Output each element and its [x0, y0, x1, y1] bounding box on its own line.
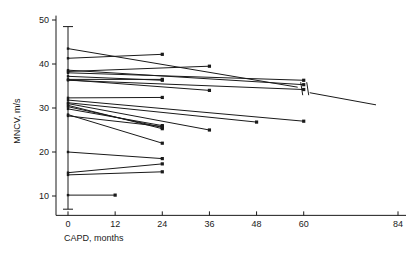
startpoint-marker [67, 115, 69, 117]
series-patient-10[interactable] [67, 96, 164, 99]
x-tick-label-84: 84 [393, 219, 403, 229]
y-tick-label-30: 30 [39, 103, 49, 113]
startpoint-marker [67, 108, 69, 110]
endpoint-marker [208, 128, 211, 131]
startpoint-marker [67, 97, 69, 99]
trajectory-line [68, 104, 209, 130]
series-patient-17[interactable] [67, 113, 164, 144]
endpoint-marker [255, 120, 258, 123]
series-patient-9[interactable] [67, 79, 306, 91]
x-tick-label-48: 48 [252, 219, 262, 229]
startpoint-marker [67, 75, 69, 77]
break-slash-2 [307, 82, 309, 95]
series-patient-11[interactable] [67, 99, 306, 123]
startpoint-marker [67, 171, 69, 173]
trajectory-line [68, 164, 162, 173]
plot-area: 1020304050MNCV, m/s0122436486084CAPD, mo… [0, 0, 418, 278]
startpoint-marker [67, 105, 69, 107]
endpoint-marker [302, 83, 305, 86]
startpoint-marker [67, 57, 69, 59]
y-tick-label-40: 40 [39, 59, 49, 69]
x-tick-label-0: 0 [65, 219, 70, 229]
trajectory-line [68, 54, 162, 58]
startpoint-marker [67, 151, 69, 153]
y-tick-label-20: 20 [39, 147, 49, 157]
endpoint-marker [161, 96, 164, 99]
endpoint-marker [161, 78, 164, 81]
startpoint-marker [67, 47, 69, 49]
y-tick-label-10: 10 [39, 191, 49, 201]
endpoint-marker [208, 65, 211, 68]
trajectory-line [68, 152, 162, 159]
x-tick-label-12: 12 [110, 219, 120, 229]
endpoint-marker [302, 79, 305, 82]
endpoint-marker [114, 194, 117, 197]
startpoint-marker [67, 99, 69, 101]
x-tick-label-60: 60 [299, 219, 309, 229]
x-tick-label-36: 36 [204, 219, 214, 229]
x-axis-title: CAPD, months [64, 233, 124, 243]
endpoint-marker [161, 53, 164, 56]
startpoint-marker [67, 72, 69, 74]
endpoint-marker [161, 125, 164, 128]
endpoint-marker [302, 88, 305, 91]
series-patient-19[interactable] [67, 151, 164, 160]
y-axis-title: MNCV, m/s [12, 98, 22, 144]
trajectory-line-after-break [310, 93, 376, 105]
series-patient-22[interactable] [67, 194, 117, 197]
figure-mncv-vs-capd: 1020304050MNCV, m/s0122436486084CAPD, mo… [0, 0, 418, 278]
series-patient-2[interactable] [67, 53, 164, 60]
endpoint-marker [161, 142, 164, 145]
startpoint-marker [67, 194, 69, 196]
endpoint-marker [208, 89, 211, 92]
endpoint-marker [302, 120, 305, 123]
startpoint-marker [67, 79, 69, 81]
endpoint-marker [161, 162, 164, 165]
trajectory-line [68, 80, 304, 89]
y-tick-label-50: 50 [39, 15, 49, 25]
trajectory-line [68, 172, 162, 175]
series-patient-5[interactable] [67, 72, 306, 82]
x-tick-label-24: 24 [157, 219, 167, 229]
baseline-range-bar [63, 27, 73, 210]
endpoint-marker [161, 157, 164, 160]
startpoint-marker [67, 174, 69, 176]
endpoint-marker [161, 170, 164, 173]
